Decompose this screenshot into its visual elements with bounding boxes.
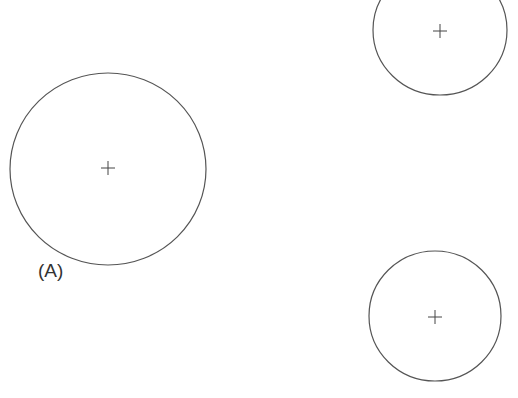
diagram-canvas	[0, 0, 518, 398]
top-right-circle-center-mark-icon	[433, 24, 447, 38]
large-circle-group	[10, 73, 206, 265]
bottom-right-circle-group	[369, 251, 501, 381]
bottom-right-circle-center-mark-icon	[428, 310, 442, 324]
label-a: (A)	[38, 260, 63, 282]
top-right-circle-group	[373, 0, 507, 95]
top-right-circle	[373, 0, 507, 95]
large-circle-center-mark-icon	[101, 161, 115, 175]
